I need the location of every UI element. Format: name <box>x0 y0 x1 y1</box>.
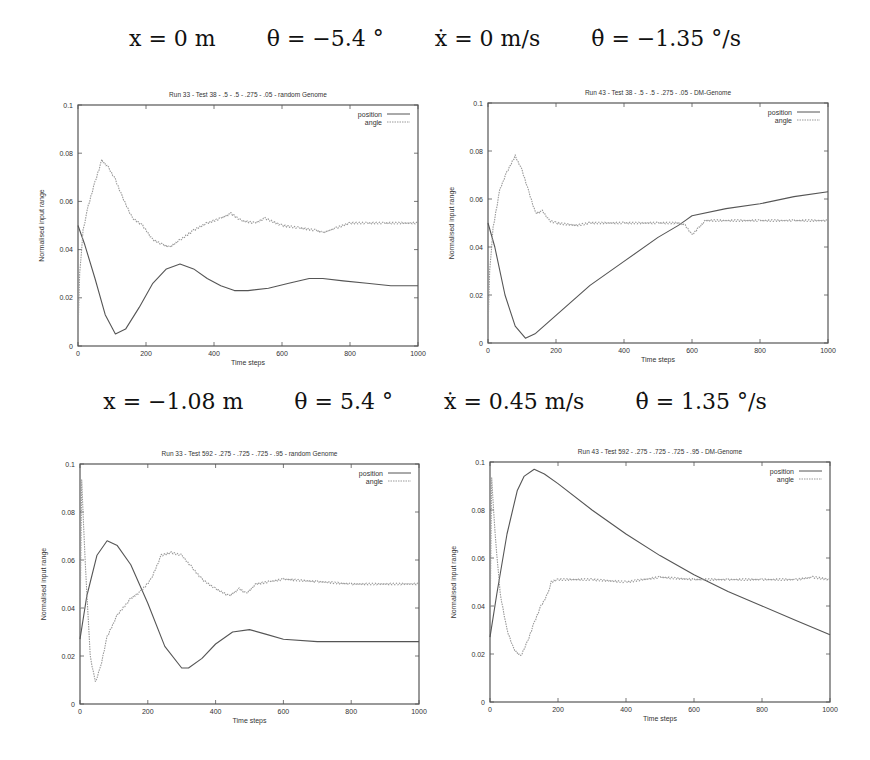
y-axis-label: Normalised input range <box>450 546 458 618</box>
y-tick-label: 0 <box>481 699 485 706</box>
y-tick-label: 0.08 <box>471 507 485 514</box>
x-tick-label: 1000 <box>822 706 838 713</box>
legend-label-angle: angle <box>777 476 794 484</box>
x-axis-label: Time steps <box>643 715 677 723</box>
legend-label-position: position <box>770 468 794 476</box>
x-tick-label: 0 <box>488 706 492 713</box>
x-tick-label: 600 <box>688 706 700 713</box>
x-tick-label: 800 <box>756 706 768 713</box>
chart-title: Run 43 - Test 592 - .275 - .725 - .725 -… <box>578 448 743 455</box>
chart-bottom-right-dm-genome: Run 43 - Test 592 - .275 - .725 - .725 -… <box>0 0 870 760</box>
x-tick-label: 200 <box>552 706 564 713</box>
series-line-position <box>490 469 830 637</box>
x-tick-label: 400 <box>620 706 632 713</box>
series-line-angle <box>490 478 830 656</box>
y-tick-label: 0.1 <box>475 459 485 466</box>
y-tick-label: 0.04 <box>471 603 485 610</box>
y-tick-label: 0.02 <box>471 651 485 658</box>
y-tick-label: 0.06 <box>471 555 485 562</box>
plot-frame <box>490 462 830 702</box>
